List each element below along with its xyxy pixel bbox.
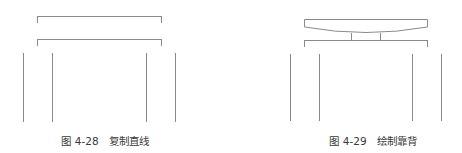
backrest-drawing (231, 0, 462, 153)
top-bracket (38, 17, 162, 24)
figure-caption: 图 4-28 复制直线 (50, 133, 160, 149)
figure-caption: 图 4-29 绘制靠背 (318, 133, 428, 149)
figure-4-28: 图 4-28 复制直线 (0, 0, 231, 153)
copy-lines-drawing (0, 0, 231, 153)
backrest-shape (305, 20, 428, 33)
second-bracket (38, 40, 162, 47)
seat-bracket (305, 41, 428, 48)
figure-4-29: 图 4-29 绘制靠背 (231, 0, 462, 153)
